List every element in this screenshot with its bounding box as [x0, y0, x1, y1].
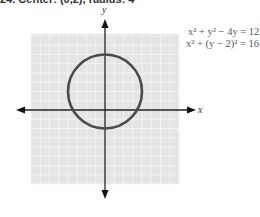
- x-axis-label: x: [197, 104, 203, 115]
- x-axis-right-arrow-icon: [187, 107, 196, 114]
- y-axis-bottom-arrow-icon: [102, 190, 109, 199]
- x-axis-left-arrow-icon: [16, 107, 25, 114]
- y-axis-top-arrow-icon: [102, 19, 109, 28]
- y-axis-label: y: [101, 4, 107, 15]
- equation-line-2: x² + (y − 2)² = 16: [186, 38, 259, 49]
- equation-line-1: x² + y² − 4y = 12: [188, 26, 259, 37]
